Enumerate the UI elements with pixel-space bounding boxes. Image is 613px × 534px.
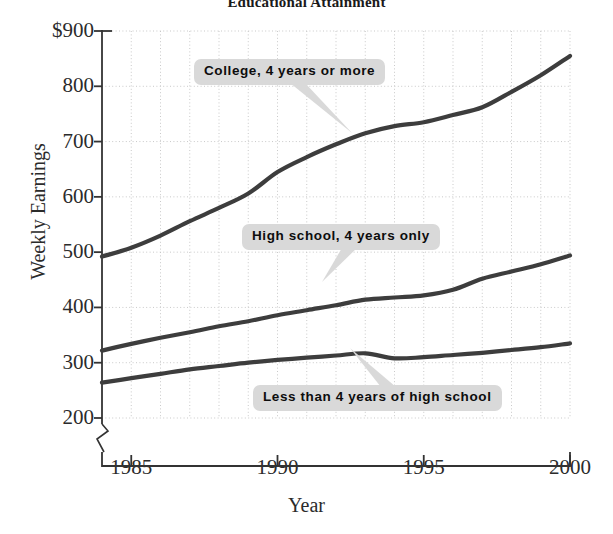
data-series-line <box>102 343 570 382</box>
series-callout-label: College, 4 years or more <box>194 59 385 85</box>
x-axis-line <box>102 452 570 466</box>
series-callout-label: Less than 4 years of high school <box>253 385 502 411</box>
series-callout-label: High school, 4 years only <box>242 224 440 250</box>
callout-pointer <box>290 83 352 133</box>
chart-container: Educational Attainment Weekly Earnings Y… <box>0 0 613 534</box>
axis-break-icon <box>97 424 108 452</box>
callout-pointer <box>322 248 357 282</box>
